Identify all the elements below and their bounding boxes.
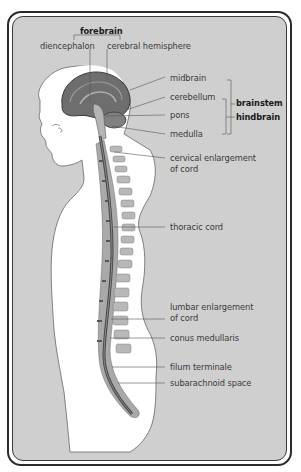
label-medulla: medulla — [170, 129, 203, 139]
label-lumbar-enlargement-2: of cord — [170, 313, 198, 323]
label-subarachnoid-space: subarachnoid space — [170, 378, 251, 388]
label-cerebral-hemisphere: cerebral hemisphere — [107, 41, 191, 51]
cerebellum — [102, 112, 126, 128]
label-cerebellum: cerebellum — [170, 92, 215, 102]
label-midbrain: midbrain — [170, 73, 206, 83]
label-lumbar-enlargement: lumbar enlargement — [170, 302, 253, 312]
label-diencephalon: diencephalon — [40, 41, 95, 51]
label-conus-medullaris: conus medullaris — [170, 333, 239, 343]
label-forebrain: forebrain — [80, 26, 123, 36]
label-thoracic-cord: thoracic cord — [170, 222, 223, 232]
label-brainstem: brainstem — [236, 98, 283, 108]
label-hindbrain: hindbrain — [236, 112, 280, 122]
label-filum-terminale: filum terminale — [170, 362, 232, 372]
label-cervical-enlargement-2: of cord — [170, 164, 198, 174]
label-cervical-enlargement: cervical enlargement — [170, 153, 256, 163]
label-pons: pons — [170, 110, 190, 120]
anatomy-illustration — [0, 0, 301, 472]
